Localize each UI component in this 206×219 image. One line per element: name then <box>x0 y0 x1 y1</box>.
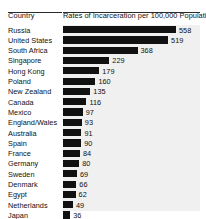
bar-row: Hong Kong179 <box>0 66 206 76</box>
bar-track: 135 <box>63 87 206 97</box>
bar-row: Japan36 <box>0 210 206 219</box>
bar-value-label: 80 <box>82 159 90 168</box>
country-label: England/Wales <box>8 118 57 127</box>
country-label: Germany <box>8 159 38 168</box>
bar-track: 62 <box>63 190 206 200</box>
country-label: Spain <box>8 139 27 148</box>
bar-value-label: 160 <box>98 77 110 86</box>
bar <box>63 36 168 43</box>
bar-value-label: 558 <box>179 26 191 35</box>
bar <box>63 98 86 105</box>
bar-row: Spain90 <box>0 138 206 148</box>
bar-value-label: 49 <box>76 201 84 210</box>
bar <box>63 129 81 136</box>
bar-track: 558 <box>63 25 206 35</box>
bar-value-label: 368 <box>141 46 153 55</box>
bar-row: Singapore229 <box>0 56 206 66</box>
country-label: South Africa <box>8 46 48 55</box>
bar-value-label: 97 <box>86 108 94 117</box>
bar <box>63 201 73 208</box>
country-label: Egypt <box>8 190 27 199</box>
country-label: Netherlands <box>8 201 48 210</box>
bar-row: New Zealand135 <box>0 87 206 97</box>
bar-row: United States519 <box>0 35 206 45</box>
bar-row: South Africa368 <box>0 46 206 56</box>
bar <box>63 170 77 177</box>
bar-value-label: 84 <box>83 149 91 158</box>
bar-value-label: 69 <box>80 170 88 179</box>
bar <box>63 47 138 54</box>
bar-row: Mexico97 <box>0 107 206 117</box>
bar-track: 179 <box>63 66 206 76</box>
bar-track: 66 <box>63 179 206 189</box>
bar <box>63 191 76 198</box>
bar-value-label: 66 <box>79 180 87 189</box>
bar-value-label: 519 <box>171 36 183 45</box>
bar-value-label: 135 <box>93 87 105 96</box>
bar-value-label: 229 <box>112 56 124 65</box>
bar-rows: Russia558United States519South Africa368… <box>0 25 206 219</box>
bar-track: 519 <box>63 35 206 45</box>
bar <box>63 119 82 126</box>
bar-row: Denmark66 <box>0 179 206 189</box>
bar-value-label: 91 <box>84 129 92 138</box>
bar <box>63 160 79 167</box>
country-header-rule <box>8 12 62 13</box>
bar-track: 69 <box>63 169 206 179</box>
incarceration-rates-bar-chart: Country Rates of Incarceration per 100,0… <box>0 0 206 219</box>
bar-row: Germany80 <box>0 159 206 169</box>
bar-track: 93 <box>63 118 206 128</box>
country-label: France <box>8 149 31 158</box>
country-label: Japan <box>8 211 28 219</box>
bar-track: 97 <box>63 107 206 117</box>
bar-track: 368 <box>63 46 206 56</box>
bar-row: Australia91 <box>0 128 206 138</box>
title-header-rule <box>63 12 200 13</box>
country-label: Australia <box>8 129 37 138</box>
country-label: Hong Kong <box>8 67 45 76</box>
bar-track: 84 <box>63 149 206 159</box>
bar <box>63 181 76 188</box>
bar-track: 49 <box>63 200 206 210</box>
bar-row: Poland160 <box>0 76 206 86</box>
bar <box>63 108 83 115</box>
bar-row: Canada116 <box>0 97 206 107</box>
bar <box>63 67 99 74</box>
bar-track: 91 <box>63 128 206 138</box>
bar-row: Egypt62 <box>0 190 206 200</box>
bar <box>63 26 176 33</box>
bar-track: 90 <box>63 138 206 148</box>
bar-value-label: 62 <box>79 190 87 199</box>
bar-row: France84 <box>0 149 206 159</box>
bar-value-label: 36 <box>73 211 81 219</box>
country-label: Russia <box>8 26 30 35</box>
country-label: Poland <box>8 77 31 86</box>
bar-row: England/Wales93 <box>0 118 206 128</box>
bar <box>63 57 109 64</box>
country-label: United States <box>8 36 52 45</box>
bar-value-label: 179 <box>102 67 114 76</box>
bar-value-label: 90 <box>84 139 92 148</box>
bar-track: 229 <box>63 56 206 66</box>
bar-row: Russia558 <box>0 25 206 35</box>
bar <box>63 150 80 157</box>
bar <box>63 211 70 218</box>
bar-track: 36 <box>63 210 206 219</box>
chart-header: Country Rates of Incarceration per 100,0… <box>0 11 206 25</box>
bar-value-label: 93 <box>85 118 93 127</box>
bar-value-label: 116 <box>89 98 101 107</box>
bar-track: 160 <box>63 76 206 86</box>
country-label: Sweden <box>8 170 35 179</box>
bar-row: Netherlands49 <box>0 200 206 210</box>
bar-track: 80 <box>63 159 206 169</box>
country-label: Denmark <box>8 180 38 189</box>
country-label: Mexico <box>8 108 31 117</box>
country-label: Canada <box>8 98 34 107</box>
country-label: Singapore <box>8 56 41 65</box>
bar <box>63 139 81 146</box>
bar-track: 116 <box>63 97 206 107</box>
bar-row: Sweden69 <box>0 169 206 179</box>
country-label: New Zealand <box>8 87 51 96</box>
bar <box>63 78 95 85</box>
bar <box>63 88 90 95</box>
